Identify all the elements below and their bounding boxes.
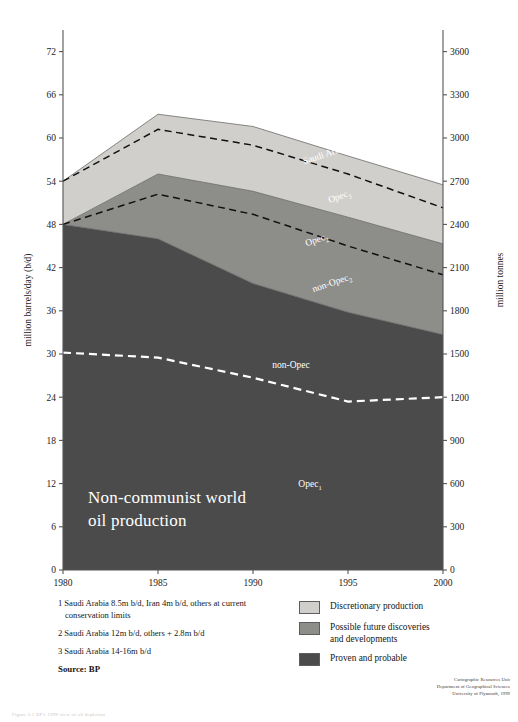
y-tick-label-right: 0: [450, 565, 455, 575]
y-tick-label-left: 24: [47, 393, 57, 403]
y-tick-label-right: 3300: [450, 90, 469, 100]
area-label-non-opec: non-Opec: [272, 360, 309, 370]
y-tick-label-left: 18: [47, 436, 57, 446]
chart-headline-line1: Non-communist world: [88, 487, 246, 510]
y-tick-label-left: 48: [47, 220, 57, 230]
footnote-3-text: Saudi Arabia 14-16m b/d: [64, 646, 151, 656]
y-tick-label-right: 900: [450, 436, 465, 446]
y-tick-label-left: 12: [47, 479, 57, 489]
legend-label-discretionary: Discretionary production: [330, 600, 423, 612]
y-tick-label-right: 2100: [450, 263, 469, 273]
chart-legend: Discretionary production Possible future…: [299, 600, 499, 673]
legend-item-proven: Proven and probable: [299, 652, 499, 666]
y-tick-label-right: 1800: [450, 306, 469, 316]
y-tick-label-right: 1200: [450, 393, 469, 403]
y-axis-right-title: million tonnes: [495, 252, 505, 307]
legend-label-possible-line2: and developments: [330, 634, 397, 644]
y-tick-label-right: 1500: [450, 349, 469, 359]
chart-root: Saudi Arabia3Opec3Opec2non-Opec2non-Opec…: [0, 0, 518, 722]
y-tick-label-left: 30: [47, 349, 57, 359]
legend-label-discretionary-line1: Discretionary production: [330, 601, 423, 611]
y-tick-label-right: 3000: [450, 133, 469, 143]
x-tick-label: 1990: [244, 578, 263, 588]
figure-caption: Figure 2.1 BP's 1999 view of oil depleti…: [12, 712, 105, 717]
footnote-1: 1Saudi Arabia 8.5m b/d, Iran 4m b/d, oth…: [58, 597, 298, 622]
footnote-2-index: 2: [58, 628, 62, 638]
legend-swatch-possible: [299, 622, 320, 635]
y-tick-label-left: 36: [47, 306, 57, 316]
legend-swatch-discretionary: [299, 601, 320, 614]
legend-item-discretionary: Discretionary production: [299, 600, 499, 614]
legend-item-possible: Possible future discoveries and developm…: [299, 621, 499, 645]
y-tick-label-left: 42: [47, 263, 57, 273]
credit-line-1: Cartographic Resources Unit: [437, 676, 510, 683]
y-tick-label-left: 66: [47, 90, 57, 100]
y-tick-label-left: 60: [47, 133, 57, 143]
y-tick-label-right: 2700: [450, 177, 469, 187]
source-label: Source: BP: [58, 663, 298, 676]
footnote-2: 2Saudi Arabia 12m b/d, others + 2.8m b/d: [58, 627, 298, 639]
y-tick-label-left: 72: [47, 47, 57, 57]
y-axis-left-title: million barrels/day (b/d): [23, 254, 34, 347]
y-tick-label-right: 2400: [450, 220, 469, 230]
footnote-2-text: Saudi Arabia 12m b/d, others + 2.8m b/d: [64, 628, 204, 638]
y-tick-label-left: 54: [47, 177, 57, 187]
footnote-1-text: Saudi Arabia 8.5m b/d, Iran 4m b/d, othe…: [64, 598, 246, 608]
x-tick-label: 1995: [339, 578, 358, 588]
y-tick-label-left: 0: [51, 565, 56, 575]
footnote-1-cont: conservation limits: [58, 609, 298, 621]
y-tick-label-right: 3600: [450, 47, 469, 57]
legend-label-proven-line1: Proven and probable: [330, 653, 407, 663]
legend-label-proven: Proven and probable: [330, 652, 407, 664]
x-tick-label: 1980: [54, 578, 73, 588]
chart-headline-line2: oil production: [88, 510, 246, 533]
credit-line-3: University of Plymouth, 1999: [437, 690, 510, 697]
y-tick-label-right: 300: [450, 522, 465, 532]
legend-label-possible-line1: Possible future discoveries: [330, 622, 430, 632]
credit-line-2: Department of Geographical Sciences: [437, 683, 510, 690]
legend-label-possible: Possible future discoveries and developm…: [330, 621, 430, 645]
cartographic-credit: Cartographic Resources Unit Department o…: [437, 676, 510, 697]
x-tick-label: 2000: [434, 578, 453, 588]
legend-swatch-proven: [299, 653, 320, 666]
footnote-1-index: 1: [58, 598, 62, 608]
y-tick-label-left: 6: [51, 522, 56, 532]
footnote-3: 3Saudi Arabia 14-16m b/d: [58, 645, 298, 657]
y-tick-label-right: 600: [450, 479, 465, 489]
x-tick-label: 1985: [149, 578, 168, 588]
footnote-3-index: 3: [58, 646, 62, 656]
footnotes: 1Saudi Arabia 8.5m b/d, Iran 4m b/d, oth…: [58, 597, 298, 676]
chart-headline: Non-communist worldoil production: [88, 487, 246, 533]
